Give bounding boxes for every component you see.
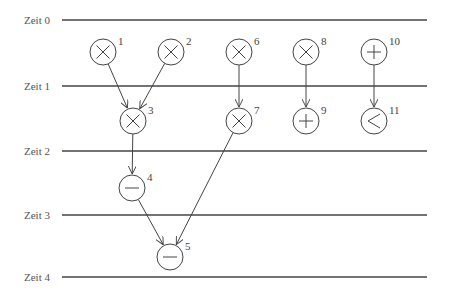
node-4: 4 [119, 171, 153, 201]
time-step-3: Zeit 3 [24, 209, 427, 221]
node-11: 11 [361, 104, 400, 134]
node-3: 3 [120, 104, 154, 134]
time-step-label: Zeit 4 [24, 271, 50, 283]
edge-3-to-4 [132, 134, 133, 174]
dataflow-diagram: Zeit 0Zeit 1Zeit 2Zeit 3Zeit 4 123456789… [0, 0, 449, 296]
node-number: 2 [186, 35, 192, 47]
operation-nodes: 1234567891011 [90, 35, 401, 270]
node-9: 9 [293, 104, 327, 134]
node-number: 6 [254, 35, 260, 47]
node-1: 1 [90, 35, 124, 65]
node-number: 10 [389, 35, 401, 47]
time-step-0: Zeit 0 [24, 14, 427, 26]
node-6: 6 [226, 35, 260, 65]
edges [108, 63, 374, 244]
edge-4-to-5 [138, 199, 163, 244]
node-2: 2 [158, 35, 192, 65]
node-number: 11 [389, 104, 400, 116]
node-number: 8 [321, 35, 327, 47]
time-step-1: Zeit 1 [24, 80, 427, 92]
time-step-label: Zeit 2 [24, 145, 50, 157]
node-number: 7 [254, 104, 260, 116]
node-7: 7 [226, 104, 260, 134]
node-5: 5 [157, 240, 191, 270]
node-number: 5 [185, 240, 191, 252]
time-step-label: Zeit 1 [24, 80, 50, 92]
node-number: 9 [321, 104, 327, 116]
edge-7-to-5 [176, 133, 233, 245]
node-8: 8 [293, 35, 327, 65]
node-number: 3 [148, 104, 154, 116]
node-10: 10 [361, 35, 401, 65]
time-step-label: Zeit 3 [24, 209, 50, 221]
time-step-4: Zeit 4 [24, 271, 427, 283]
node-number: 4 [147, 171, 153, 183]
time-step-label: Zeit 0 [24, 14, 50, 26]
node-number: 1 [118, 35, 124, 47]
